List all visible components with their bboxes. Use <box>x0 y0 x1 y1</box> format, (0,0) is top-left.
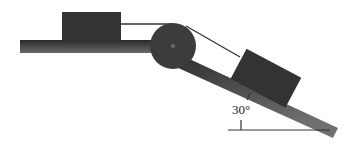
pulley-incline-diagram: 30° <box>0 0 354 152</box>
block-horizontal <box>62 12 121 41</box>
angle-label: 30° <box>232 102 250 117</box>
horizontal-surface <box>20 40 160 53</box>
pulley-axle <box>171 44 175 48</box>
